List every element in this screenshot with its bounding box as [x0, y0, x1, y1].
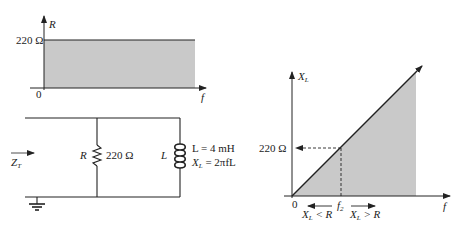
resistance-shaded-area	[44, 40, 195, 88]
resistor-value-label: 220 Ω	[106, 149, 133, 161]
f2-label: f2	[337, 199, 344, 213]
left-region-label: XL < R	[301, 208, 333, 222]
xl-axis-label: XL	[297, 70, 309, 84]
origin-label-right: 0	[292, 198, 298, 210]
reactance-plot: XL 220 Ω 0 f2 f XL < R XL > R	[259, 66, 450, 222]
f-axis-label-right: f	[443, 200, 448, 212]
resistor-name-label: R	[79, 149, 87, 161]
inductance-equation: L = 4 mH	[192, 142, 235, 154]
resistor-symbol	[93, 145, 101, 166]
r-axis-label: R	[48, 18, 56, 30]
ground-icon	[29, 204, 45, 210]
level-label: 220 Ω	[16, 34, 43, 46]
inductor-name-label: L	[160, 149, 167, 161]
f-axis-label: f	[201, 91, 206, 103]
zt-label: ZT	[11, 156, 22, 170]
diagram-canvas: R 220 Ω 0 f ZT R 220 Ω L L = 4 mH XL = 2…	[0, 0, 462, 233]
circuit-labels: ZT R 220 Ω L L = 4 mH XL = 2πfL	[11, 142, 236, 170]
resistance-plot: R 220 Ω 0 f	[16, 16, 206, 103]
origin-label: 0	[36, 88, 42, 100]
level-label-right: 220 Ω	[259, 142, 286, 154]
inductor-coil-symbol	[175, 144, 180, 168]
reactance-equation: XL = 2πfL	[191, 156, 236, 170]
right-region-label: XL > R	[349, 208, 381, 222]
parallel-rl-circuit	[11, 118, 185, 210]
